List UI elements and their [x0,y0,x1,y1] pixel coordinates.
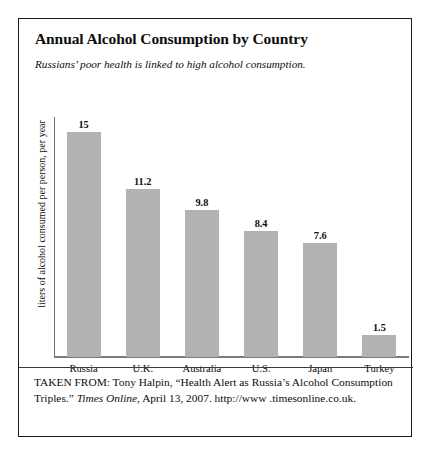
bar-rect [126,189,160,357]
bar-value-label: 7.6 [289,230,351,241]
bar-u-s[interactable]: 8.4 [244,231,278,357]
bar-japan[interactable]: 7.6 [303,243,337,357]
bar-turkey[interactable]: 1.5 [362,335,396,358]
bar-value-label: 9.8 [171,197,233,208]
source-citation: TAKEN FROM: Tony Halpin, “Health Alert a… [19,374,413,406]
bar-value-label: 11.2 [112,176,174,187]
citation-line-3: .timesonline.co.uk. [269,392,356,404]
bars-layer: 1511.29.88.47.61.5 [54,117,409,357]
bar-chart-plot-area: liters of alcohol consumed per person, p… [19,91,413,369]
bar-rect [67,132,101,357]
bar-value-label: 15 [53,119,115,130]
bar-u-k[interactable]: 11.2 [126,189,160,357]
chart-subtitle: Russians’ poor health is linked to high … [35,58,395,71]
chart-title: Annual Alcohol Consumption by Country [35,30,395,48]
y-axis-label: liters of alcohol consumed per person, p… [37,96,47,332]
bar-value-label: 8.4 [230,218,292,229]
bar-value-label: 1.5 [348,322,410,333]
bar-russia[interactable]: 15 [67,132,101,357]
citation-divider [19,367,413,368]
citation-line-1: TAKEN FROM: Tony Halpin, “Health Alert a… [34,376,329,388]
citation-publication-name: Times Online [77,392,137,404]
figure-header: Annual Alcohol Consumption by Country Ru… [19,19,411,71]
bar-rect [362,335,396,358]
bar-rect [185,210,219,357]
bar-australia[interactable]: 9.8 [185,210,219,357]
x-tick-label-turkey: Turkey [341,363,417,374]
bar-rect [303,243,337,357]
figure-frame: Annual Alcohol Consumption by Country Ru… [18,18,412,437]
citation-line-2-suffix: , April 13, 2007. http://www [137,392,266,404]
bar-rect [244,231,278,357]
